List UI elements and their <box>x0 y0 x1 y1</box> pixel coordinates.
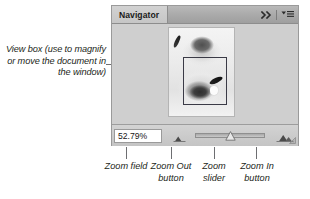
thumbnail-stage <box>112 24 298 124</box>
callout-zoom-in-button: Zoom In button <box>232 161 282 184</box>
leader-line-zoom-field <box>126 147 127 159</box>
leader-line-zoom-slider <box>214 147 215 159</box>
callout-zoom-out-button: Zoom Out button <box>142 161 200 184</box>
document-thumbnail[interactable] <box>169 28 234 116</box>
tab-navigator[interactable]: Navigator <box>112 6 168 23</box>
leader-line-zoom-in-button <box>256 147 257 159</box>
resize-grip-icon[interactable] <box>289 137 296 144</box>
small-mountain-icon <box>173 135 186 142</box>
leader-line-zoom-out-button <box>171 147 172 159</box>
view-box-overlay[interactable] <box>183 57 227 105</box>
zoom-out-button[interactable] <box>172 130 186 142</box>
tab-bar-controls <box>261 6 298 23</box>
zoom-slider-thumb[interactable] <box>225 131 236 141</box>
panel-bottom-bar: 52.79% <box>112 124 298 146</box>
tab-bar-divider <box>276 10 277 20</box>
zoom-slider[interactable] <box>195 130 265 142</box>
panel-menu-icon[interactable] <box>281 10 294 20</box>
view-box-annotation: View box (use to magnify or move the doc… <box>2 44 106 79</box>
tab-bar-spacer <box>168 6 261 23</box>
panel-tab-bar: Navigator <box>112 6 298 24</box>
callout-zoom-slider: Zoom slider <box>193 161 235 184</box>
zoom-field[interactable]: 52.79% <box>114 129 162 143</box>
navigator-panel: Navigator <box>112 6 298 145</box>
double-chevron-right-icon[interactable] <box>261 10 272 19</box>
